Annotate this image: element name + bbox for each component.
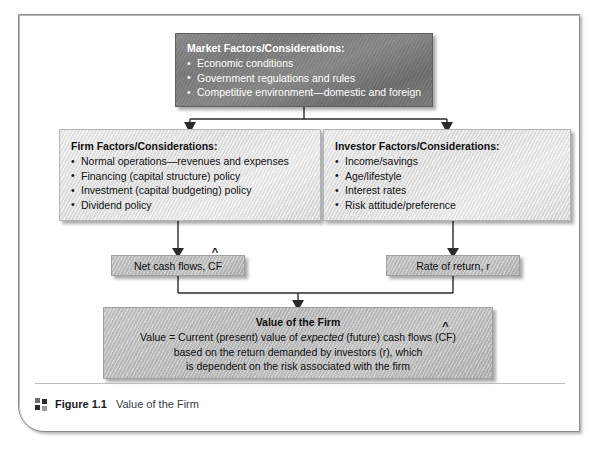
caption-divider (35, 383, 565, 384)
value-cf-symbol: CF (438, 331, 452, 343)
value-line1-c: ) (452, 331, 456, 343)
figure-title-text: Value of the Firm (116, 398, 199, 410)
value-of-the-firm-box: Value of the Firm Value = Current (prese… (103, 307, 493, 379)
figure-caption: Figure 1.1 Value of the Firm (35, 395, 199, 413)
value-formula-line-2: based on the return demanded by investor… (112, 345, 484, 360)
list-item: Age/lifestyle (335, 169, 570, 184)
firm-factors-title: Firm Factors/Considerations: (71, 139, 320, 153)
market-factors-title: Market Factors/Considerations: (187, 41, 432, 55)
figure-frame: Market Factors/Considerations: Economic … (18, 14, 580, 432)
cf-hat-accent: ^ (212, 248, 218, 256)
rate-of-return-box: Rate of return, r (386, 255, 520, 276)
cf-symbol-wrap: ^CF (208, 256, 222, 277)
investor-factors-box: Investor Factors/Considerations: Income/… (323, 129, 571, 221)
figure-number-label: Figure 1.1 (55, 398, 107, 410)
market-factors-box: Market Factors/Considerations: Economic … (175, 33, 433, 107)
four-squares-icon (35, 398, 48, 411)
firm-factors-box: Firm Factors/Considerations: Normal oper… (59, 129, 321, 221)
cf-symbol: CF (208, 260, 222, 272)
list-item: Dividend policy (71, 198, 320, 213)
value-formula-line-3: is dependent on the risk associated with… (112, 359, 484, 374)
net-cash-flows-prefix: Net cash flows, (134, 260, 208, 272)
list-item: Competitive environment—domestic and for… (187, 85, 432, 100)
list-item: Income/savings (335, 154, 570, 169)
value-line1-a: Value = Current (present) value of (140, 331, 301, 343)
value-of-the-firm-title: Value of the Firm (112, 315, 484, 329)
value-of-firm-flowchart: Market Factors/Considerations: Economic … (19, 15, 581, 433)
value-cf-symbol-wrap: ^CF (438, 330, 452, 345)
net-cash-flows-label: Net cash flows, ^CF (112, 256, 244, 277)
list-item: Investment (capital budgeting) policy (71, 183, 320, 198)
value-formula-line-1: Value = Current (present) value of expec… (112, 330, 484, 345)
list-item: Risk attitude/preference (335, 198, 570, 213)
net-cash-flows-box: Net cash flows, ^CF (111, 255, 245, 276)
rate-of-return-label: Rate of return, r (387, 256, 519, 277)
investor-factors-title: Investor Factors/Considerations: (335, 139, 570, 153)
list-item: Financing (capital structure) policy (71, 169, 320, 184)
value-line1-emphasis: expected (301, 331, 344, 343)
value-line1-b: (future) cash flows ( (343, 331, 438, 343)
list-item: Economic conditions (187, 56, 432, 71)
list-item: Normal operations—revenues and expenses (71, 154, 320, 169)
list-item: Government regulations and rules (187, 71, 432, 86)
list-item: Interest rates (335, 183, 570, 198)
investor-factors-bullets: Income/savings Age/lifestyle Interest ra… (335, 154, 570, 212)
value-cf-hat-accent: ^ (442, 322, 448, 330)
firm-factors-bullets: Normal operations—revenues and expenses … (71, 154, 320, 212)
market-factors-bullets: Economic conditions Government regulatio… (187, 56, 432, 100)
